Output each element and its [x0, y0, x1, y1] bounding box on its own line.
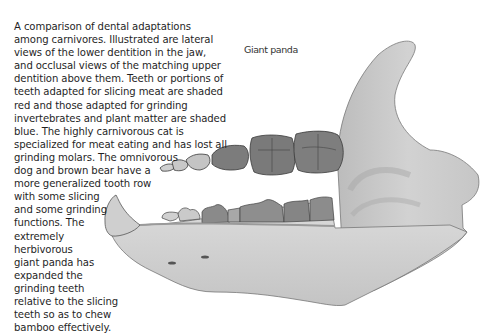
caption-line: dentition above them. Teeth or portions … — [14, 72, 227, 85]
caption-line: and occlusal views of the matching upper — [14, 59, 227, 72]
caption-line: more generalized tooth row — [14, 177, 227, 190]
caption-line: grinding teeth — [14, 282, 227, 295]
caption-line: A comparison of dental adaptations — [14, 20, 227, 33]
caption-line: teeth so as to chew — [14, 308, 227, 321]
figure-label-giant-panda: Giant panda — [244, 44, 298, 55]
caption-line: teeth adapted for slicing meat are shade… — [14, 85, 227, 98]
caption-line: with some slicing — [14, 190, 227, 203]
caption-line: views of the lower dentition in the jaw, — [14, 46, 227, 59]
caption-line: giant panda has — [14, 256, 227, 269]
caption-line: expanded the — [14, 269, 227, 282]
caption-line: dog and brown bear have a — [14, 164, 227, 177]
caption-line: specialized for meat eating and has lost… — [14, 138, 227, 151]
caption-line: and some grinding — [14, 203, 227, 216]
caption-line: functions. The — [14, 216, 227, 229]
caption-line: bamboo effectively. — [14, 321, 227, 333]
caption-line: relative to the slicing — [14, 295, 227, 308]
caption-line: blue. The highly carnivorous cat is — [14, 125, 227, 138]
caption-line: among carnivores. Illustrated are latera… — [14, 33, 227, 46]
caption-line: grinding molars. The omnivorous — [14, 151, 227, 164]
figure-caption: A comparison of dental adaptations among… — [14, 20, 227, 333]
caption-line: invertebrates and plant matter are shade… — [14, 112, 227, 125]
caption-line: herbivorous — [14, 243, 227, 256]
caption-line: extremely — [14, 230, 227, 243]
caption-line: red and those adapted for grinding — [14, 99, 227, 112]
